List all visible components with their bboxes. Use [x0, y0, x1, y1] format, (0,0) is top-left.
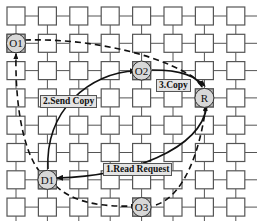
node-label: O2 [135, 65, 148, 77]
label-copy: 3.Copy [156, 79, 191, 92]
node-o2: O2 [132, 61, 151, 80]
node-d1: D1 [38, 170, 57, 189]
label-read-request: 1.Read Request [103, 163, 172, 176]
node-label: R [201, 92, 209, 104]
label-send-copy: 2.Send Copy [40, 95, 97, 108]
node-label: O1 [9, 37, 22, 49]
mesh-diagram: O1O2RD1O3 2.Send Copy 3.Copy 1.Read Requ… [0, 0, 257, 221]
node-label: D1 [41, 174, 54, 186]
node-r: R [195, 88, 214, 107]
nodes-layer: O1O2RD1O3 [0, 0, 257, 221]
node-o1: O1 [7, 34, 26, 53]
node-label: O3 [135, 201, 149, 213]
node-o3: O3 [132, 198, 151, 217]
